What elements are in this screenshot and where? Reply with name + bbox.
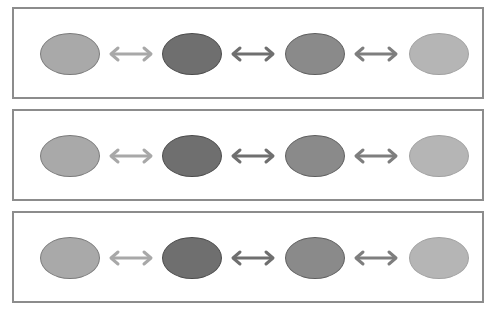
diagram-panel-2 <box>12 109 484 201</box>
ellipse-node-4 <box>409 135 469 177</box>
ellipse-node-1 <box>40 135 100 177</box>
diagram-panel-1 <box>12 7 484 99</box>
double-arrow-icon <box>229 249 277 267</box>
ellipse-node-3 <box>285 237 345 279</box>
ellipse-node-1 <box>40 237 100 279</box>
double-arrow-icon <box>352 249 400 267</box>
diagram-panel-3 <box>12 211 484 303</box>
double-arrow-icon <box>107 147 155 165</box>
ellipse-node-2 <box>162 237 222 279</box>
ellipse-node-2 <box>162 135 222 177</box>
ellipse-node-2 <box>162 33 222 75</box>
ellipse-node-4 <box>409 33 469 75</box>
double-arrow-icon <box>229 147 277 165</box>
double-arrow-icon <box>107 249 155 267</box>
ellipse-node-4 <box>409 237 469 279</box>
double-arrow-icon <box>352 45 400 63</box>
double-arrow-icon <box>107 45 155 63</box>
double-arrow-icon <box>229 45 277 63</box>
ellipse-node-1 <box>40 33 100 75</box>
double-arrow-icon <box>352 147 400 165</box>
ellipse-node-3 <box>285 33 345 75</box>
ellipse-node-3 <box>285 135 345 177</box>
